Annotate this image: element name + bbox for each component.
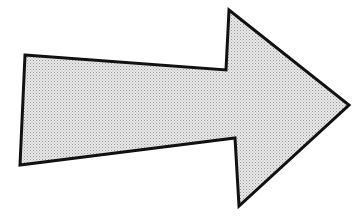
diagram-canvas [0, 0, 363, 217]
right-arrow-icon [20, 10, 349, 206]
arrow-diagram [0, 0, 363, 217]
